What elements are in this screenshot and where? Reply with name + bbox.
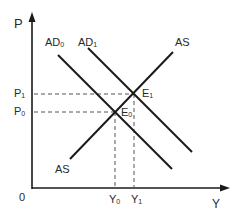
ad0-label: AD0 (45, 37, 64, 49)
y-axis-arrow-icon (29, 12, 36, 22)
y0-label: Y0 (109, 194, 120, 206)
p0-label: P0 (14, 106, 25, 118)
as-label-top: AS (175, 37, 190, 48)
as-label-bottom: AS (55, 164, 70, 175)
x-axis-label: Y (212, 199, 220, 210)
y-axis-label: P (14, 18, 23, 29)
p1-label: P1 (14, 88, 25, 100)
e0-label: E0 (121, 107, 132, 119)
e1-label: E1 (142, 88, 153, 100)
ad1-label: AD1 (78, 37, 97, 49)
y1-label: Y1 (131, 194, 142, 206)
x-axis-arrow-icon (220, 185, 230, 192)
origin-label: 0 (19, 192, 25, 203)
